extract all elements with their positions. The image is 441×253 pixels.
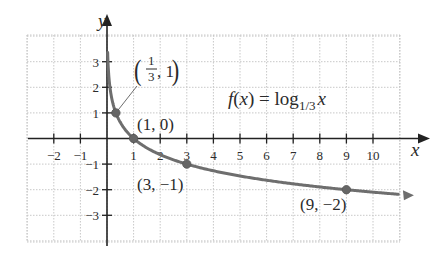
data-point-marker [112, 109, 120, 117]
data-point-marker [129, 134, 137, 142]
y-tick-label: −2 [85, 183, 99, 198]
y-tick-label: −3 [85, 208, 99, 223]
log-function-graph: −2−112345678910321−1−2−3 y x f(x) = log1… [0, 0, 441, 253]
x-axis-label: x [410, 139, 420, 160]
function-label: f(x) = log1/3x [228, 88, 327, 113]
data-point-marker [342, 186, 350, 194]
data-point-marker [183, 160, 191, 168]
x-tick-label: −2 [47, 148, 61, 163]
x-tick-label: 1 [130, 148, 137, 163]
svg-text:): ) [172, 53, 179, 87]
y-axis-label: y [96, 10, 107, 31]
point-label-three-neg-one: (3, −1) [137, 175, 183, 194]
svg-text:(: ( [134, 53, 141, 87]
x-tick-label: 10 [367, 148, 380, 163]
x-tick-label: 4 [210, 148, 217, 163]
x-tick-label: 6 [263, 148, 270, 163]
fraction-numerator: 1 [148, 53, 155, 68]
x-axis-arrow-icon [418, 134, 430, 144]
point-label-nine-neg-two: (9, −2) [300, 195, 346, 214]
fraction-denominator: 3 [148, 69, 155, 84]
log-base: 1/3 [299, 98, 316, 113]
y-tick-label: −1 [85, 157, 99, 172]
x-tick-label: 9 [343, 148, 350, 163]
x-tick-label: 8 [317, 148, 324, 163]
x-tick-label: 5 [237, 148, 244, 163]
y-tick-label: 3 [93, 55, 100, 70]
y-tick-label: 2 [93, 80, 100, 95]
x-tick-label: 7 [290, 148, 297, 163]
curve-arrow-icon [403, 190, 414, 200]
y-tick-label: 1 [93, 106, 100, 121]
point-label-one-third-one: ( 1 3 , 1 ) [134, 53, 179, 87]
point-label-one-zero: (1, 0) [137, 115, 174, 134]
